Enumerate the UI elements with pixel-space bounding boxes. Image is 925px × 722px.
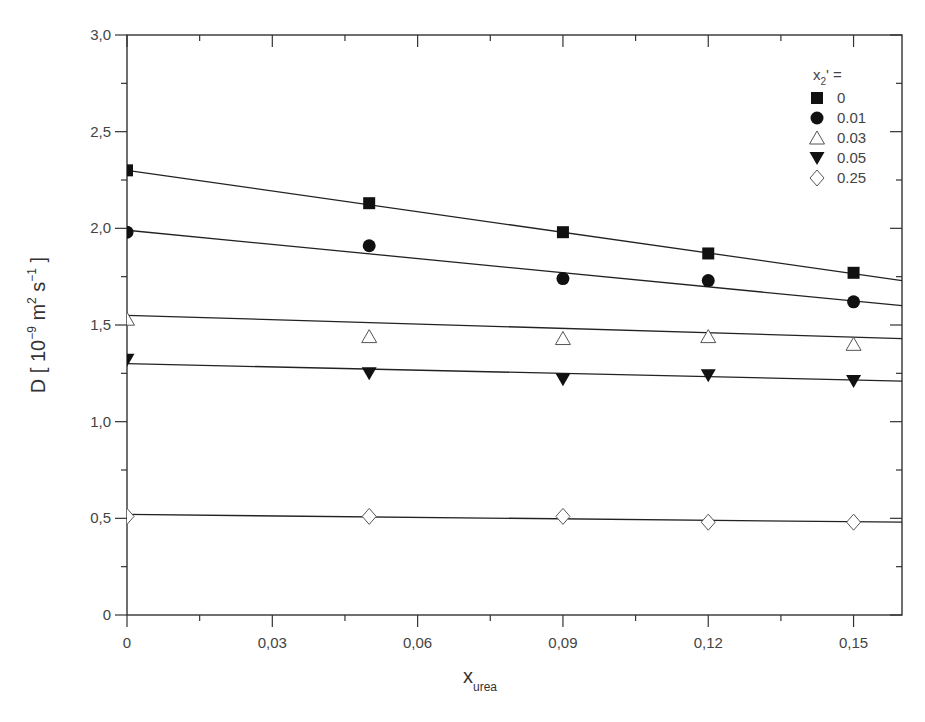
data-point-0	[363, 197, 375, 209]
data-point-0.05	[120, 354, 135, 367]
y-tick-label: 1,5	[90, 316, 111, 333]
y-tick-label: 3,0	[90, 26, 111, 43]
y-tick-label: 0	[103, 606, 111, 623]
data-markers	[120, 164, 862, 530]
x-tick-label: 0,03	[258, 634, 287, 651]
diffusion-coefficient-chart: 00,51,01,52,02,53,0 00,030,060,090,120,1…	[0, 0, 925, 722]
plot-frame	[127, 35, 902, 615]
x-axis: 00,030,060,090,120,15	[123, 35, 868, 651]
legend-entry-0.25: 0.25	[810, 169, 866, 186]
legend-entry-0: 0	[811, 89, 845, 106]
legend-label: 0.05	[837, 149, 866, 166]
data-point-0	[848, 267, 860, 279]
data-point-0.01	[121, 226, 134, 239]
legend-entry-0.05: 0.05	[810, 149, 867, 166]
x-tick-label: 0,06	[403, 634, 432, 651]
data-point-0.01	[702, 274, 715, 287]
data-point-0.05	[846, 375, 861, 388]
fit-line-0.05	[127, 364, 902, 381]
legend-entry-0.01: 0.01	[811, 109, 867, 126]
x-tick-label: 0,12	[694, 634, 723, 651]
legend-marker-icon	[811, 92, 823, 104]
x-axis-title: xurea	[463, 665, 497, 694]
data-point-0.05	[701, 369, 716, 382]
legend-label: 0.03	[837, 129, 866, 146]
y-tick-label: 2,5	[90, 123, 111, 140]
data-point-0.25	[362, 508, 376, 524]
data-point-0.03	[846, 337, 861, 350]
legend-title: x2' =	[813, 66, 842, 87]
data-point-0	[121, 164, 133, 176]
y-axis-title: D [ 10−9 m2 s−1 ]	[25, 257, 49, 393]
y-axis: 00,51,01,52,02,53,0	[90, 26, 902, 623]
plot-border	[127, 35, 902, 615]
data-point-0.03	[701, 330, 716, 343]
data-point-0.01	[847, 295, 860, 308]
data-point-0.05	[555, 373, 570, 386]
legend-marker-icon	[811, 112, 824, 125]
data-point-0.03	[120, 312, 135, 325]
legend-marker-icon	[810, 170, 824, 186]
legend-entry-0.03: 0.03	[810, 129, 867, 146]
x-tick-label: 0	[123, 634, 131, 651]
fit-line-0.03	[127, 315, 902, 338]
fit-lines	[127, 170, 902, 522]
data-point-0.25	[847, 514, 861, 530]
x-tick-label: 0,09	[548, 634, 577, 651]
data-point-0.25	[701, 514, 715, 530]
data-point-0.25	[120, 508, 134, 524]
legend: x2' =00.010.030.050.25	[810, 66, 867, 186]
data-point-0.03	[555, 332, 570, 345]
legend-label: 0.25	[837, 169, 866, 186]
fit-line-0.25	[127, 514, 902, 522]
legend-label: 0.01	[837, 109, 866, 126]
x-tick-label: 0,15	[839, 634, 868, 651]
legend-marker-icon	[810, 131, 825, 144]
y-tick-label: 2,0	[90, 219, 111, 236]
data-point-0	[557, 226, 569, 238]
data-point-0.05	[362, 367, 377, 380]
data-point-0	[702, 247, 714, 259]
data-point-0.01	[363, 239, 376, 252]
data-point-0.01	[556, 272, 569, 285]
y-tick-label: 1,0	[90, 413, 111, 430]
legend-label: 0	[837, 89, 845, 106]
fit-line-0.01	[127, 230, 902, 305]
legend-marker-icon	[810, 152, 825, 165]
fit-line-0	[127, 170, 902, 280]
data-point-0.03	[362, 330, 377, 343]
y-tick-label: 0,5	[90, 509, 111, 526]
data-point-0.25	[556, 508, 570, 524]
